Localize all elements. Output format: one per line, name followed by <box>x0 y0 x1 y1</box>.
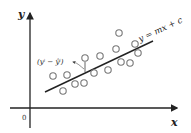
data-point <box>97 53 103 59</box>
data-point <box>127 60 133 66</box>
residual-label: (yⁱ − ŷⁱ) <box>37 58 64 66</box>
data-point <box>60 88 66 94</box>
data-point <box>82 55 88 61</box>
data-point <box>91 70 97 76</box>
residual-arrow <box>73 62 84 69</box>
fit-line <box>45 41 153 92</box>
data-point <box>118 59 124 65</box>
x-axis-label: x <box>170 116 178 129</box>
data-point <box>72 81 78 87</box>
origin-label: 0 <box>22 114 26 122</box>
y-axis-label: y <box>17 8 26 21</box>
data-point <box>132 41 138 47</box>
regression-diagram: y x 0 y = mx + c (yⁱ − ŷⁱ) <box>0 0 191 133</box>
data-point <box>81 80 87 86</box>
data-point <box>50 73 56 79</box>
data-point <box>113 46 119 52</box>
data-point <box>64 72 70 78</box>
data-point <box>135 50 141 56</box>
fit-equation-label: y = mx + c <box>136 15 184 45</box>
data-point <box>116 30 122 36</box>
data-point <box>105 67 111 73</box>
